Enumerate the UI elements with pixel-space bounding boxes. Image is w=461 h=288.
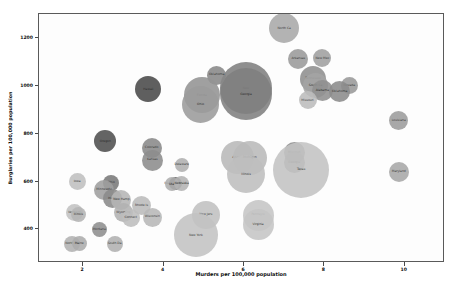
x-tick-mark xyxy=(323,262,324,266)
y-tick-label: 600 xyxy=(23,178,33,183)
bubble-point[interactable]: Maine xyxy=(72,236,87,251)
bubble-label: Georgia xyxy=(240,93,252,96)
bubble-label: Arkansas xyxy=(291,57,305,60)
bubble-point[interactable]: Delaware xyxy=(175,158,189,172)
y-tick-label: 800 xyxy=(23,130,33,135)
bubble-label: Iowa xyxy=(74,180,81,183)
bubble-chart-figure: North CaArkansasNew MexTennesseeSouth Ca… xyxy=(0,0,461,288)
y-tick-label: 1200 xyxy=(20,34,33,39)
bubble-label: Virginia xyxy=(252,223,263,226)
x-tick-mark xyxy=(163,262,164,266)
bubble-label: Alabama xyxy=(316,89,329,92)
bubble-label: New Hamp xyxy=(113,198,130,201)
bubble-point[interactable]: Nebraska xyxy=(174,176,189,191)
bubble-point[interactable]: Montana xyxy=(92,222,107,237)
bubble-layer: North CaArkansasNew MexTennesseeSouth Ca… xyxy=(39,14,443,261)
y-tick-mark xyxy=(35,228,39,229)
bubble-label: Wisconsin xyxy=(145,215,160,218)
bubble-point[interactable]: Oregon xyxy=(94,130,116,152)
bubble-label: North Ca xyxy=(278,27,291,30)
bubble-label: Texas xyxy=(297,168,305,171)
x-tick-mark xyxy=(82,262,83,266)
bubble-point[interactable]: Connect xyxy=(122,209,140,227)
x-tick-mark xyxy=(404,262,405,266)
bubble-point[interactable]: South Da xyxy=(107,236,123,252)
bubble-point[interactable]: Iowa xyxy=(69,173,86,190)
bubble-label: New York xyxy=(189,234,203,237)
bubble-label: New Mex xyxy=(316,57,330,60)
bubble-point[interactable]: Arkansas xyxy=(288,49,308,69)
plot-area: North CaArkansasNew MexTennesseeSouth Ca… xyxy=(38,13,444,262)
y-tick-label: 400 xyxy=(23,226,33,231)
bubble-label: Illinois xyxy=(241,173,250,176)
bubble-label: Illinois xyxy=(74,213,83,216)
bubble-label: Oklahoma xyxy=(332,90,347,93)
bubble-label: Louisiana xyxy=(392,119,406,122)
bubble-point[interactable]: Illinois xyxy=(71,207,86,222)
x-tick-label: 8 xyxy=(322,267,325,272)
y-tick-mark xyxy=(35,85,39,86)
bubble-point[interactable]: Georgia xyxy=(220,68,272,120)
bubble-label: Missouri xyxy=(301,99,313,102)
bubble-label: Rhode Is xyxy=(135,204,148,207)
bubble-label: Hawaii xyxy=(143,88,153,91)
bubble-point[interactable]: New Mex xyxy=(313,49,331,67)
bubble-label: South Da xyxy=(108,242,122,245)
y-tick-mark xyxy=(35,37,39,38)
bubble-point[interactable]: Ohio xyxy=(182,86,219,123)
bubble-label: Montana xyxy=(93,228,106,231)
bubble-point[interactable]: Virginia xyxy=(243,209,274,240)
bubble-label: Connect xyxy=(124,216,136,219)
bubble-label: Delaware xyxy=(175,163,189,166)
y-axis-label: Burglaries per 100,000 population xyxy=(8,92,13,185)
x-tick-label: 10 xyxy=(401,267,407,272)
x-tick-mark xyxy=(243,262,244,266)
y-tick-label: 1000 xyxy=(20,82,33,87)
y-tick-mark xyxy=(35,133,39,134)
bubble-point[interactable]: Illinois xyxy=(227,155,265,193)
bubble-label: Nebraska xyxy=(175,182,189,185)
bubble-label: Kansas xyxy=(147,158,158,161)
bubble-label: Ohio xyxy=(197,103,204,106)
bubble-point[interactable]: North Ca xyxy=(269,13,299,43)
bubble-point[interactable]: Missouri xyxy=(299,91,317,109)
x-tick-label: 2 xyxy=(81,267,84,272)
bubble-point[interactable]: Hawaii xyxy=(135,76,161,102)
bubble-point[interactable]: Kansas xyxy=(142,150,163,171)
bubble-point[interactable]: Oklahoma xyxy=(329,81,350,102)
bubble-point[interactable]: Louisiana xyxy=(389,111,408,130)
y-tick-mark xyxy=(35,181,39,182)
bubble-label: Oklahoma xyxy=(209,73,224,76)
x-axis-label: Murders per 100,000 population xyxy=(195,271,286,277)
bubble-point[interactable]: Maryland xyxy=(389,162,409,182)
bubble-label: Oregon xyxy=(100,140,111,143)
x-tick-label: 4 xyxy=(161,267,164,272)
bubble-point[interactable]: New York xyxy=(174,213,218,257)
bubble-point[interactable]: Texas xyxy=(273,142,329,198)
bubble-label: Maryland xyxy=(392,170,406,173)
bubble-label: Maine xyxy=(75,242,84,245)
bubble-point[interactable]: Wisconsin xyxy=(143,208,162,227)
